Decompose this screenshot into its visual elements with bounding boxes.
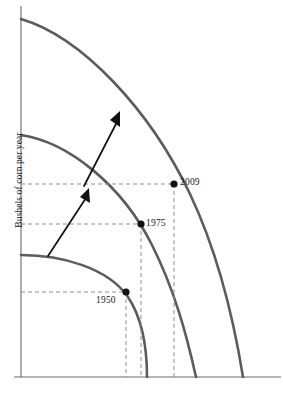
shift-arrow-lower-line [48, 198, 86, 256]
data-label-2009: 2009 [180, 178, 200, 188]
data-label-1975: 1975 [146, 219, 166, 229]
data-point-2009 [170, 180, 177, 187]
chart-plot-area [0, 0, 283, 403]
frontier-curve-inner-1950 [21, 255, 147, 377]
chart-canvas: Bushels of corn per year 1950 1975 2009 [0, 0, 283, 403]
frontier-curve-outer-2009 [21, 19, 243, 377]
data-point-1950 [122, 288, 129, 295]
data-label-1950: 1950 [96, 296, 116, 306]
data-point-1975 [137, 220, 144, 227]
y-axis-title: Bushels of corn per year [14, 120, 24, 240]
